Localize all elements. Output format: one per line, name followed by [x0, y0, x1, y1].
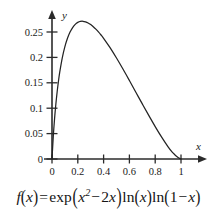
figure-caption: f(x)=exp(x2−2x)ln(x)ln(1−x): [0, 180, 217, 213]
formula-expression: f(x)=exp(x2−2x)ln(x)ln(1−x): [16, 188, 200, 206]
y-tick-label-2: 0.1: [30, 103, 43, 114]
formula-minus-1: −: [90, 188, 101, 205]
formula-var-5: x: [188, 188, 195, 205]
x-tick-label-0: 0: [49, 166, 54, 177]
formula-paren-open-3: (: [135, 186, 140, 208]
formula-paren-close-1: ): [33, 186, 38, 208]
formula-paren-open-2: (: [72, 183, 78, 209]
x-tick-label-2: 0.4: [97, 166, 111, 177]
x-tick-label-3: 0.6: [123, 166, 136, 177]
figure-container: 0 0.05 0.1 0.15 0.2 0.25 0 0.2 0.4 0.6 0…: [0, 0, 217, 213]
formula-var-3: x: [109, 188, 116, 205]
y-tick-label-0: 0: [38, 154, 43, 165]
y-tick-label-4: 0.2: [30, 52, 43, 63]
formula-ln-2: ln: [152, 188, 164, 205]
formula-paren-close-3: ): [147, 186, 152, 208]
x-axis-label: x: [195, 140, 201, 152]
x-tick-label-5: 1: [178, 166, 183, 177]
x-axis-arrow-icon: [198, 155, 207, 162]
formula-paren-open-4: (: [164, 186, 169, 208]
formula-var-1: x: [26, 188, 33, 205]
x-tick-label-4: 0.8: [149, 166, 162, 177]
y-axis-arrow-icon: [48, 10, 56, 19]
formula-equals: =: [38, 188, 49, 205]
y-tick-label-3: 0.15: [25, 77, 43, 88]
formula-paren-close-4: ): [195, 186, 200, 208]
formula-paren-close-2: ): [116, 183, 122, 209]
formula-ln-1: ln: [122, 188, 134, 205]
plot-area: 0 0.05 0.1 0.15 0.2 0.25 0 0.2 0.4 0.6 0…: [0, 0, 217, 180]
y-tick-label-5: 0.25: [25, 27, 43, 38]
y-tick-label-1: 0.05: [25, 128, 43, 139]
x-tick-label-1: 0.2: [71, 166, 84, 177]
function-curve: [52, 21, 181, 159]
formula-coefficient: 2: [101, 188, 109, 205]
formula-exp: exp: [49, 188, 72, 205]
formula-minus-2: −: [177, 188, 188, 205]
y-axis-label: y: [61, 9, 67, 21]
formula-var-4: x: [140, 188, 147, 205]
formula-paren-open-1: (: [21, 186, 26, 208]
